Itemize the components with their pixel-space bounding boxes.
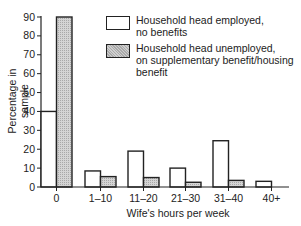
y-tick-label: 30 (23, 124, 35, 136)
y-tick-label: 90 (23, 11, 35, 23)
legend-label: Household head unemployed, (136, 42, 296, 54)
bar-unemployed (101, 177, 117, 187)
bar-employed (41, 111, 57, 187)
bar-unemployed (186, 182, 202, 187)
x-tick-label: 40+ (263, 192, 281, 204)
x-axis: 01–1011–2021–3031–4040+ (41, 187, 289, 204)
legend-swatch-hatched (106, 44, 130, 58)
bar-employed (213, 141, 229, 187)
bar-unemployed (229, 180, 245, 187)
y-tick-label: 80 (23, 29, 35, 41)
x-tick-label: 21–30 (171, 192, 200, 204)
y-tick-label: 70 (23, 48, 35, 60)
x-tick-label: 11–20 (129, 192, 158, 204)
y-tick-label: 10 (23, 162, 35, 174)
legend: Household head employed, no benefits Hou… (106, 14, 301, 82)
x-tick-label: 1–10 (89, 192, 113, 204)
legend-label: no benefits (136, 26, 296, 38)
bar-employed (256, 181, 272, 187)
bar-employed (170, 168, 186, 187)
x-tick-label: 0 (54, 192, 60, 204)
x-tick-label: 31–40 (214, 192, 243, 204)
bar-unemployed (144, 178, 160, 187)
y-tick-label: 0 (29, 181, 35, 193)
legend-item-employed: Household head employed, no benefits (106, 14, 301, 38)
legend-label: Household head employed, (136, 14, 296, 26)
x-axis-label: Wife's hours per week (88, 207, 268, 219)
legend-swatch-white (106, 16, 130, 30)
y-tick-label: 20 (23, 143, 35, 155)
bar-employed (85, 171, 101, 187)
y-axis-label: Percentage in sample (6, 51, 18, 151)
bar-unemployed (57, 17, 73, 187)
legend-label: benefit (136, 66, 296, 78)
y-tick-label: 60 (23, 67, 35, 79)
bar-employed (128, 151, 144, 187)
legend-item-unemployed: Household head unemployed, on supplement… (106, 42, 301, 78)
legend-label: on supplementary benefit/housing (136, 54, 296, 66)
